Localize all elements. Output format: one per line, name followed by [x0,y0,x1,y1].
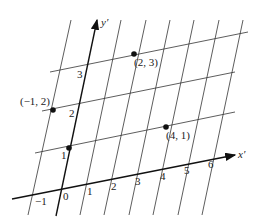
point-label: (−1, 2) [20,95,50,108]
y-tick-label: 3 [77,68,83,80]
x-tick-label: −1 [35,195,47,207]
x-axis [12,155,235,199]
point-0-1 [66,145,72,151]
grid-lines-horizontal [35,32,248,153]
x-axis-label: x′ [237,148,246,160]
point-neg1-2 [50,107,56,113]
point-label: (2, 3) [134,56,158,69]
x-tick-label: 2 [111,180,117,192]
oblique-coordinate-diagram: x′ y′ −1 0 1 2 3 4 5 6 1 2 3 (−1, 2) (2, [0,0,260,222]
point-label: (4, 1) [166,129,190,142]
x-tick-labels: −1 0 1 2 3 4 5 6 [35,158,214,207]
diagram-canvas: x′ y′ −1 0 1 2 3 4 5 6 1 2 3 (−1, 2) (2, [0,0,260,222]
x-tick-label: 0 [63,190,69,202]
x-tick-label: 4 [160,170,166,182]
y-tick-label: 2 [69,107,75,119]
y-tick-label: 1 [61,149,67,161]
x-tick-label: 3 [135,175,141,187]
x-tick-label: 1 [87,185,93,197]
x-tick-label: 6 [208,158,214,170]
y-axis-label: y′ [100,16,109,28]
x-tick-label: 5 [184,164,190,176]
